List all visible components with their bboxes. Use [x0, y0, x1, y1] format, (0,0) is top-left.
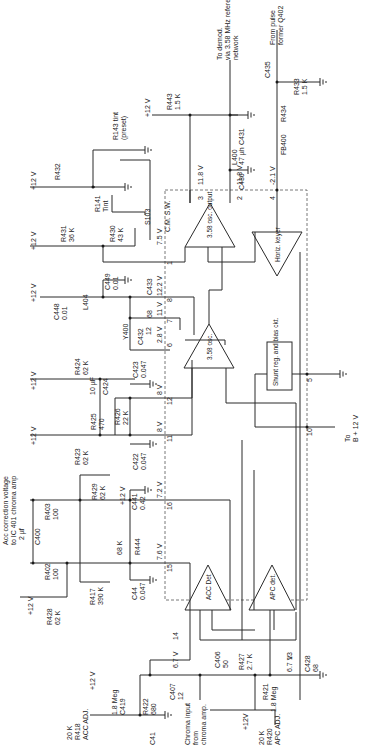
- svg-text:390 K: 390 K: [97, 586, 104, 605]
- svg-text:R143 tint: R143 tint: [112, 112, 119, 140]
- svg-text:22 K: 22 K: [122, 410, 129, 425]
- svg-text:11 V: 11 V: [156, 302, 163, 316]
- svg-text:C428: C428: [304, 655, 311, 672]
- svg-text:network: network: [232, 35, 239, 60]
- svg-text:0.047: 0.047: [140, 452, 147, 470]
- svg-text:12.2 V: 12.2 V: [156, 275, 163, 296]
- svg-text:R422: R422: [142, 698, 149, 715]
- svg-text:C406: C406: [214, 651, 221, 668]
- svg-text:R427: R427: [238, 653, 245, 670]
- svg-text:62 K: 62 K: [99, 485, 106, 500]
- svg-text:20 K: 20 K: [66, 725, 73, 740]
- svg-text:C449: C449: [104, 273, 111, 290]
- svg-text:3.58 osc.: 3.58 osc.: [206, 333, 213, 360]
- svg-text:47 µh: 47 µh: [238, 147, 246, 165]
- block-horiz-keyer: Horiz. keyer: [252, 226, 302, 276]
- svg-text:50: 50: [222, 660, 229, 668]
- svg-text:FB400: FB400: [280, 134, 287, 155]
- svg-text:R434: R434: [280, 105, 287, 122]
- svg-text:R444: R444: [134, 538, 141, 555]
- svg-text:Chroma input: Chroma input: [184, 703, 192, 745]
- svg-text:68: 68: [146, 310, 153, 318]
- svg-text:3.58 osc. output: 3.58 osc. output: [206, 192, 214, 238]
- svg-text:R403: R403: [44, 503, 51, 520]
- svg-text:12: 12: [166, 397, 173, 405]
- svg-text:+12 V: +12 V: [30, 426, 37, 445]
- svg-text:12: 12: [145, 327, 152, 335]
- svg-text:C441: C441: [131, 493, 138, 510]
- svg-text:R429: R429: [91, 483, 98, 500]
- svg-text:C400: C400: [34, 528, 41, 545]
- svg-text:1.8 Meg: 1.8 Meg: [270, 687, 278, 712]
- svg-text:C422: C422: [132, 453, 139, 470]
- svg-text:3: 3: [197, 196, 204, 200]
- svg-text:C407: C407: [169, 683, 176, 700]
- svg-text:8 V: 8 V: [156, 421, 163, 432]
- svg-text:R417: R417: [89, 588, 96, 605]
- svg-text:R443: R443: [166, 93, 173, 110]
- svg-text:8: 8: [166, 298, 173, 302]
- svg-text:-2.1 V: -2.1 V: [269, 166, 276, 185]
- svg-text:62 K: 62 K: [82, 450, 89, 465]
- svg-text:68 K: 68 K: [116, 540, 123, 555]
- svg-text:(preset): (preset): [120, 116, 128, 140]
- svg-text:C41: C41: [149, 732, 156, 745]
- block-osc-output: 3.58 osc. output: [185, 192, 235, 247]
- svg-text:0.01: 0.01: [61, 306, 68, 320]
- svg-text:To: To: [344, 435, 351, 443]
- svg-text:ACC Det: ACC Det: [205, 574, 212, 600]
- svg-text:+12 V: +12 V: [89, 671, 96, 690]
- svg-text:C44: C44: [131, 587, 138, 600]
- svg-text:R433: R433: [293, 78, 300, 95]
- svg-text:+12V: +12V: [242, 713, 249, 730]
- svg-text:From pulse: From pulse: [269, 10, 277, 45]
- svg-text:R426: R426: [114, 408, 121, 425]
- svg-text:ACC ADJ.: ACC ADJ.: [82, 708, 89, 740]
- svg-text:11: 11: [166, 435, 173, 442]
- svg-text:R418: R418: [74, 723, 81, 740]
- svg-text:68: 68: [312, 664, 319, 672]
- svg-text:R425: R425: [90, 413, 97, 430]
- svg-text:100: 100: [52, 568, 59, 580]
- svg-text:14: 14: [172, 632, 179, 640]
- svg-text:20 K: 20 K: [258, 730, 265, 745]
- svg-text:C448: C448: [53, 303, 60, 320]
- svg-text:11.8 V: 11.8 V: [197, 165, 204, 185]
- svg-text:1.8 Meg: 1.8 Meg: [111, 690, 119, 715]
- svg-text:2.8 V: 2.8 V: [156, 326, 163, 343]
- svg-text:B + 12 V: B + 12 V: [352, 415, 359, 442]
- svg-text:6.7 V: 6.7 V: [172, 651, 179, 668]
- circuit-schematic: 3.58 osc. output Horiz. keyer 3.58 osc. …: [0, 0, 371, 745]
- svg-text:R402: R402: [44, 563, 51, 580]
- svg-text:To demod.: To demod.: [216, 27, 223, 60]
- svg-text:7.2 V: 7.2 V: [156, 481, 163, 498]
- svg-text:16: 16: [166, 502, 173, 510]
- svg-text:62 K: 62 K: [82, 360, 89, 375]
- svg-text:Tint: Tint: [102, 201, 109, 212]
- svg-text:7: 7: [166, 319, 173, 323]
- block-shunt-reg: Shunt reg. and bias ckt.: [267, 318, 292, 390]
- svg-text:62 K: 62 K: [54, 610, 61, 625]
- svg-text:APC det.: APC det.: [269, 574, 276, 600]
- svg-text:43 K: 43 K: [117, 227, 124, 242]
- svg-text:10: 10: [306, 428, 313, 436]
- svg-text:C433: C433: [146, 278, 153, 295]
- svg-text:C424: C424: [102, 378, 109, 395]
- svg-text:R420: R420: [266, 728, 273, 745]
- svg-text:C432: C432: [137, 328, 144, 345]
- svg-text:36 K: 36 K: [68, 227, 75, 242]
- component-labels: R443 1.5 K +12 V To demod. via 3.58 MHz …: [2, 0, 359, 745]
- svg-text:to IC 401 chroma amp: to IC 401 chroma amp: [10, 476, 18, 545]
- svg-text:L404: L404: [82, 294, 89, 310]
- svg-text:2: 2: [236, 196, 243, 200]
- svg-text:APC ADJ.: APC ADJ.: [274, 714, 281, 745]
- svg-text:5: 5: [306, 378, 313, 382]
- svg-text:7.5 V: 7.5 V: [156, 228, 163, 245]
- svg-text:C431: C431: [238, 128, 245, 145]
- svg-text:R430: R430: [109, 225, 116, 242]
- block-acc-det: ACC Det: [185, 565, 231, 610]
- svg-text:Y400: Y400: [122, 324, 129, 340]
- svg-text:2.7 K: 2.7 K: [246, 653, 253, 670]
- svg-text:Horiz. keyer: Horiz. keyer: [274, 226, 282, 262]
- svg-text:C435: C435: [264, 61, 271, 78]
